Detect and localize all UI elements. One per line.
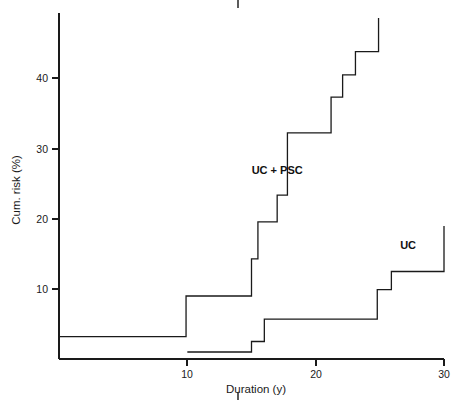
y-tick-label-30: 30: [36, 143, 48, 155]
y-axis-title: Cum. risk (%): [10, 155, 22, 225]
series-annotation-uc-psc: UC + PSC: [252, 164, 303, 176]
y-axis-ticks: 40 30 20 10: [36, 72, 59, 295]
kaplan-meier-chart: 40 30 20 10 10 20 30 Duration (y) Cum. r…: [0, 0, 457, 400]
y-tick-label-40: 40: [36, 72, 48, 84]
x-tick-label-20: 20: [310, 368, 322, 380]
axes: [59, 13, 444, 359]
series-annotation-uc: UC: [400, 239, 416, 251]
series-group: [59, 18, 444, 352]
x-tick-label-10: 10: [181, 368, 193, 380]
y-tick-label-10: 10: [36, 283, 48, 295]
x-axis-title: Duration (y): [226, 383, 286, 395]
x-tick-label-30: 30: [438, 368, 450, 380]
series-line-uc-psc: [59, 18, 379, 337]
y-tick-label-20: 20: [36, 213, 48, 225]
x-axis-ticks: 10 20 30: [181, 359, 450, 380]
figure-container: 40 30 20 10 10 20 30 Duration (y) Cum. r…: [0, 0, 457, 400]
